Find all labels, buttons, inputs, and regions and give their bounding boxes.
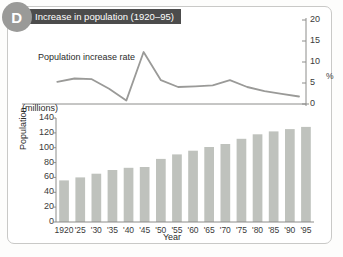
bar (269, 131, 279, 222)
percent-tick-label: 5 (310, 77, 315, 87)
bar (156, 159, 166, 222)
percent-tick-label: 10 (310, 56, 320, 66)
line-chart-svg (22, 30, 319, 112)
bar (75, 177, 85, 222)
panel-badge: D (2, 2, 32, 32)
bar-chart-xlabel: Year (22, 232, 322, 242)
percent-tick-label: 20 (310, 14, 320, 24)
bar (253, 134, 263, 222)
percent-tick-label: 0 (310, 98, 315, 108)
figure-panel: D Increase in population (1920–95) Popul… (0, 0, 343, 257)
percent-axis-unit: % (326, 71, 334, 81)
bar-chart: Population 020406080100120140 1920'25'30… (22, 114, 322, 234)
bar (301, 127, 311, 222)
bar (92, 174, 102, 222)
population-rate-line (57, 52, 299, 101)
percent-axis-ticks (300, 18, 310, 110)
bar (221, 144, 231, 222)
bar (188, 151, 198, 222)
bar (204, 147, 214, 222)
percent-axis: 0 5 10 15 20 % (300, 14, 340, 114)
bar (140, 167, 150, 222)
bar (124, 168, 134, 222)
bar (237, 139, 247, 222)
bar (59, 180, 69, 222)
chart-title-banner: Increase in population (1920–95) (26, 9, 181, 24)
line-chart: Population increase rate (22, 30, 319, 112)
bar (172, 154, 182, 222)
bar (285, 129, 295, 222)
bar-chart-svg (22, 114, 322, 230)
percent-tick-label: 15 (310, 35, 320, 45)
bar (108, 170, 118, 222)
